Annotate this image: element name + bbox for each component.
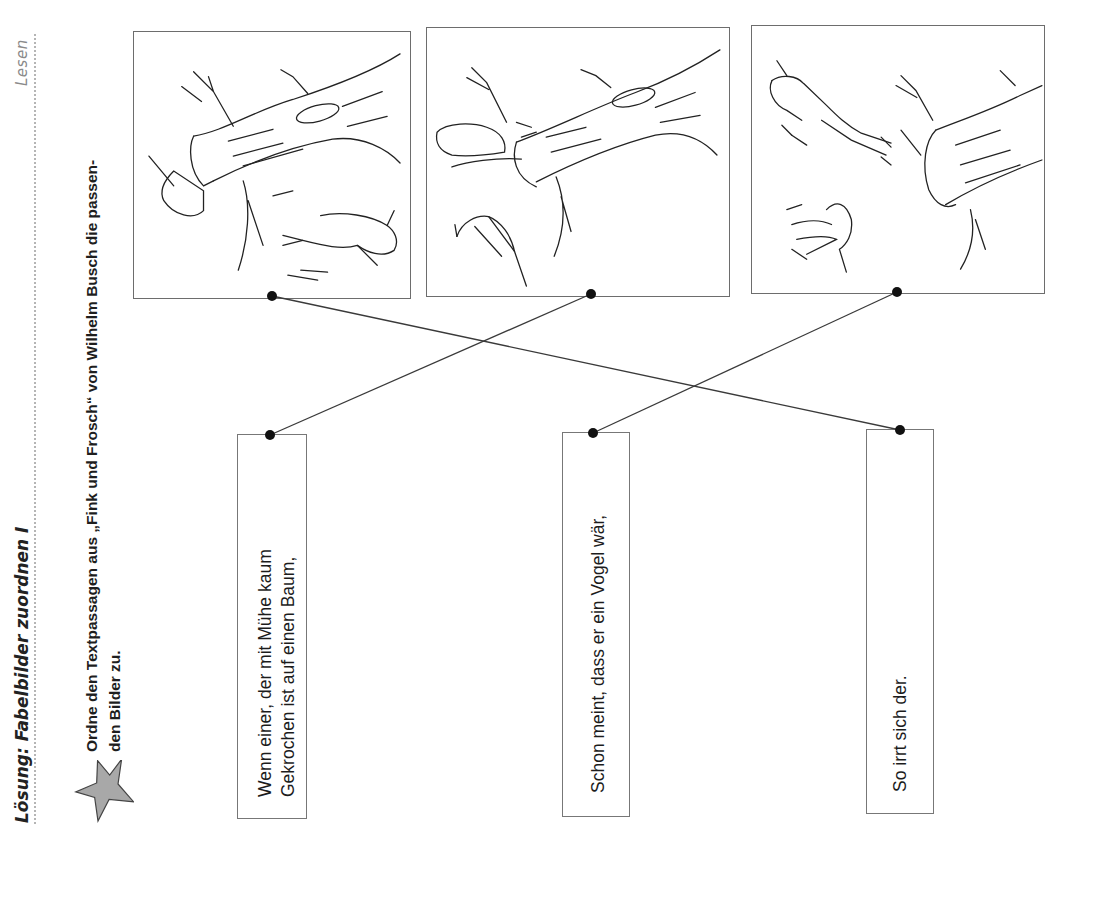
section-label: Lesen — [13, 39, 31, 86]
fable-illustration-1 — [134, 32, 410, 298]
fable-illustration-2 — [427, 28, 729, 296]
passage-3-line-1: So irrt sich der. — [889, 675, 912, 792]
connector-line-picture-3-to-passage-2 — [593, 292, 897, 433]
connector-line-picture-2-to-passage-1 — [270, 294, 591, 435]
passage-box-2: Schon meint, dass er ein Vogel wär, — [562, 432, 630, 817]
picture-panel-3 — [751, 25, 1045, 294]
header-divider — [34, 34, 36, 824]
star-icon — [74, 760, 134, 824]
fable-illustration-3 — [752, 26, 1044, 293]
passage-1-line-1: Wenn einer, der mit Mühe kaum — [254, 549, 277, 797]
passage-2-line-1: Schon meint, dass er ein Vogel wär, — [587, 515, 610, 793]
passage-1-line-2: Gekrochen ist auf einen Baum, — [277, 557, 300, 797]
instruction-text-line-2: den Bilder zu. — [106, 650, 124, 752]
connector-line-picture-1-to-passage-3 — [272, 296, 900, 430]
instruction-text-line-1: Ordne den Textpassagen aus „Fink und Fro… — [83, 160, 101, 752]
passage-box-3: So irrt sich der. — [866, 429, 934, 814]
picture-panel-1 — [133, 31, 411, 299]
picture-panel-2 — [426, 27, 730, 297]
page-title: Lösung: Fabelbilder zuordnen I — [12, 527, 32, 823]
passage-box-1: Wenn einer, der mit Mühe kaum Gekrochen … — [237, 434, 307, 819]
